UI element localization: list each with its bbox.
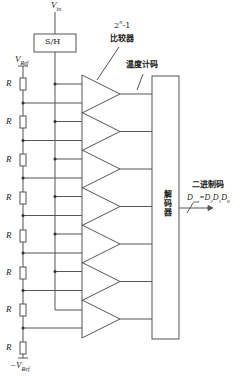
output-equation: Dout=D2D1D0 xyxy=(187,193,229,204)
vref-top-label: VRef xyxy=(15,54,29,66)
comparator-count: 2N-1 xyxy=(114,20,130,30)
resistor-label: R xyxy=(6,230,12,240)
resistor-label: R xyxy=(6,304,12,314)
binary-code-label: 二进制码 xyxy=(192,178,224,189)
resistor-label: R xyxy=(6,342,12,352)
sh-label: S/H xyxy=(45,37,60,46)
vin-label: Vin xyxy=(51,0,61,12)
thermometer-outputs xyxy=(120,94,152,319)
resistor-label: R xyxy=(6,78,12,88)
output-arrow-icon xyxy=(208,206,213,211)
minus-input-wires xyxy=(23,103,82,328)
resistor-label: R xyxy=(6,192,12,202)
decoder-label: 解码器 xyxy=(161,190,172,217)
plus-input-wires xyxy=(55,84,82,310)
junction-dots xyxy=(22,83,57,330)
thermometer-pointer xyxy=(137,74,143,90)
comparator-label: 比较器 xyxy=(110,32,134,43)
comparator-pointer xyxy=(97,47,119,80)
resistor-label: R xyxy=(6,116,12,126)
comparators xyxy=(82,75,120,338)
vref-bottom-label: −VRef xyxy=(10,360,30,372)
resistor-label: R xyxy=(6,267,12,277)
thermometer-code-label: 温度计码 xyxy=(126,58,158,69)
resistor-label: R xyxy=(6,154,12,164)
